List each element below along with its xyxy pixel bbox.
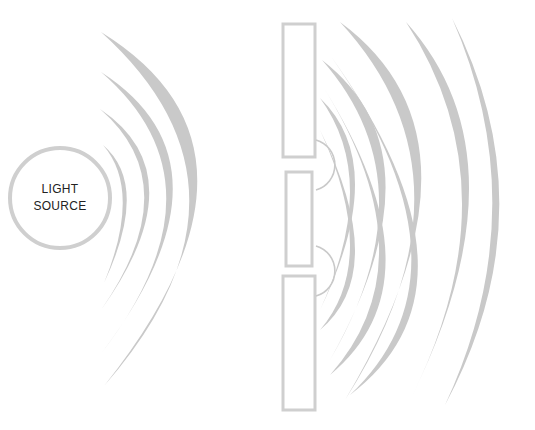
- barrier-bottom-block: [283, 276, 315, 410]
- double-slit-diagram: LIGHT SOURCE: [0, 0, 535, 430]
- incident-wave-3: [100, 72, 173, 355]
- barrier-middle-block: [286, 172, 312, 266]
- incident-waves: [100, 32, 197, 386]
- light-source: LIGHT SOURCE: [10, 148, 110, 248]
- slit-2-wavelet: [316, 246, 335, 296]
- slit-wavelets: [316, 140, 335, 296]
- light-source-label-line1: LIGHT: [42, 182, 79, 196]
- light-source-label-line2: SOURCE: [33, 199, 86, 213]
- diffracted-waves-slit-2: [320, 18, 499, 405]
- barrier-top-block: [283, 24, 315, 157]
- slit-1-wavelet: [316, 140, 335, 190]
- light-source-circle: [10, 148, 110, 248]
- barrier: [283, 24, 315, 410]
- slit-2-wave-4: [445, 18, 499, 405]
